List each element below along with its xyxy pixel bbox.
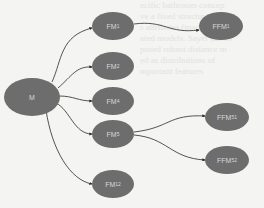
- node-label: FFM: [217, 157, 231, 164]
- edge-FM5-FFM52: [134, 135, 205, 160]
- edge-FM1-FFM1: [134, 23, 199, 30]
- node-FM5: FM5: [92, 120, 134, 148]
- node-FM12: FM12: [92, 170, 134, 198]
- edge-M-FM12: [46, 110, 92, 184]
- node-subscript: 12: [115, 181, 121, 187]
- node-label: FM: [107, 98, 117, 105]
- node-label: FM: [107, 23, 117, 30]
- edge-M-FM1: [52, 28, 92, 82]
- edge-FM5-FFM51: [134, 116, 205, 132]
- edge-M-FM5: [56, 103, 92, 134]
- edge-M-FM2: [58, 67, 92, 88]
- node-FM2: FM2: [92, 52, 134, 80]
- node-FM1: FM1: [92, 12, 134, 40]
- node-FM4: FM4: [92, 87, 134, 115]
- edge-M-FM4: [59, 96, 92, 101]
- node-label: FM: [105, 181, 115, 188]
- node-label: FFM: [217, 114, 231, 121]
- node-subscript: 52: [231, 157, 237, 163]
- node-subscript: 2: [117, 63, 120, 69]
- node-subscript: 1: [117, 23, 120, 29]
- node-subscript: 51: [231, 114, 237, 120]
- node-label: FFM: [212, 23, 226, 30]
- node-subscript: 4: [117, 98, 120, 104]
- node-label: FM: [107, 131, 117, 138]
- node-subscript: 1: [227, 23, 230, 29]
- node-FFM51: FFM51: [205, 103, 249, 131]
- node-M: M: [4, 78, 60, 116]
- node-subscript: 5: [117, 131, 120, 137]
- node-label: FM: [107, 63, 117, 70]
- node-FFM52: FFM52: [205, 146, 249, 174]
- node-label: M: [29, 94, 35, 101]
- node-FFM1: FFM1: [199, 12, 243, 40]
